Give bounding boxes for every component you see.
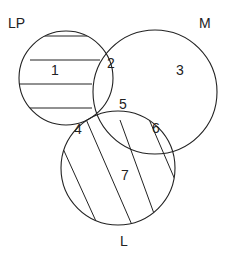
region-2-label: 2 xyxy=(107,55,115,71)
l-diagonal-hatching xyxy=(50,98,210,230)
set-label-lp: LP xyxy=(8,15,25,31)
venn-diagram: LP M L 1 2 3 4 5 6 7 xyxy=(0,0,234,253)
set-label-m: M xyxy=(199,15,211,31)
set-label-l: L xyxy=(120,233,128,249)
region-6-label: 6 xyxy=(152,120,160,136)
region-3-label: 3 xyxy=(176,62,184,78)
region-7-label: 7 xyxy=(121,167,129,183)
region-1-label: 1 xyxy=(51,62,59,78)
region-4-label: 4 xyxy=(74,121,82,137)
set-lp-circle xyxy=(19,31,113,125)
region-5-label: 5 xyxy=(119,96,127,112)
lp-horizontal-hatching xyxy=(18,36,110,131)
